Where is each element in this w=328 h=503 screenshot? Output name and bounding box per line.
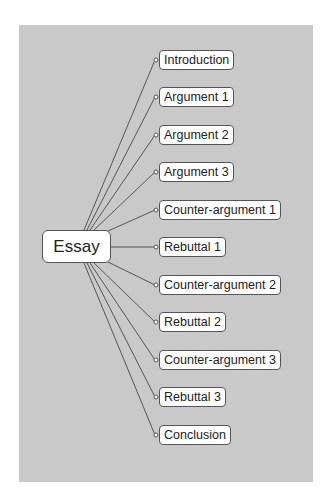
node-label: Argument 2 [164, 128, 229, 142]
root-node-label: Essay [53, 237, 99, 257]
node-counter-argument-2[interactable]: Counter-argument 2 [159, 275, 281, 295]
node-label: Introduction [164, 53, 229, 67]
node-argument-1[interactable]: Argument 1 [159, 87, 234, 107]
node-label: Counter-argument 2 [164, 278, 276, 292]
node-label: Argument 3 [164, 165, 229, 179]
node-label: Conclusion [164, 428, 226, 442]
node-rebuttal-1[interactable]: Rebuttal 1 [159, 237, 226, 257]
node-label: Rebuttal 3 [164, 390, 221, 404]
node-argument-3[interactable]: Argument 3 [159, 162, 234, 182]
node-label: Counter-argument 3 [164, 353, 276, 367]
node-label: Counter-argument 1 [164, 203, 276, 217]
node-rebuttal-2[interactable]: Rebuttal 2 [159, 312, 226, 332]
root-node-essay[interactable]: Essay [42, 230, 111, 263]
node-counter-argument-3[interactable]: Counter-argument 3 [159, 350, 281, 370]
node-label: Rebuttal 2 [164, 315, 221, 329]
node-argument-2[interactable]: Argument 2 [159, 125, 234, 145]
node-label: Argument 1 [164, 90, 229, 104]
node-counter-argument-1[interactable]: Counter-argument 1 [159, 200, 281, 220]
node-introduction[interactable]: Introduction [159, 50, 234, 70]
node-label: Rebuttal 1 [164, 240, 221, 254]
node-conclusion[interactable]: Conclusion [159, 425, 231, 445]
node-rebuttal-3[interactable]: Rebuttal 3 [159, 387, 226, 407]
